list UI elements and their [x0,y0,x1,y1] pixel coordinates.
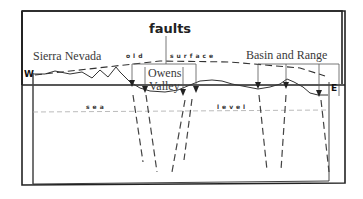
east-label: E [331,84,337,93]
sea-label: sea [86,104,107,110]
fault-cross-section-diagram: faults Sierra Nevada old surface Basin a… [0,0,363,199]
old-label: old [126,53,145,59]
outer-frame-lower [22,11,345,185]
west-label: W [24,70,34,79]
frame-border [22,11,345,185]
sierra-nevada-label: Sierra Nevada [33,50,101,62]
owens-valley-label-line2: Valley [149,80,180,92]
faults-label: faults [149,22,191,35]
level-label: level [217,104,248,110]
owens-valley-label-line1: Owens [148,67,181,79]
surface-label: surface [170,53,216,59]
basin-and-range-label: Basin and Range [246,49,327,61]
